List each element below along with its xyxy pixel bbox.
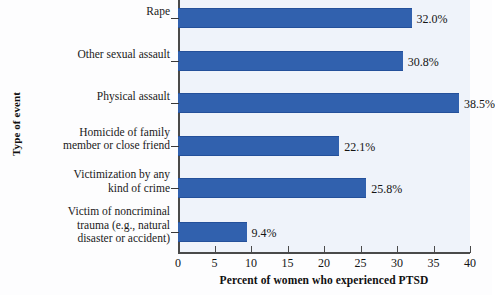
bar xyxy=(178,93,459,113)
category-label-line: Other sexual assault xyxy=(18,48,170,61)
x-tick-label: 5 xyxy=(203,256,227,271)
plot-area-background xyxy=(178,0,470,253)
bar xyxy=(178,222,247,242)
x-tick xyxy=(324,246,325,253)
bar xyxy=(178,8,412,28)
category-label: Victim of noncriminaltrauma (e.g., natur… xyxy=(18,205,170,245)
x-tick-label: 10 xyxy=(239,256,263,271)
x-tick-label: 25 xyxy=(349,256,373,271)
category-tick xyxy=(171,188,179,189)
category-label-line: kind of crime xyxy=(18,182,170,195)
y-axis-line xyxy=(178,0,180,253)
x-tick xyxy=(288,246,289,253)
category-label: Physical assault xyxy=(18,90,170,103)
bar xyxy=(178,136,339,156)
bar-value-label: 25.8% xyxy=(371,182,402,197)
bar xyxy=(178,51,403,71)
category-label: Other sexual assault xyxy=(18,48,170,61)
bar xyxy=(178,178,366,198)
x-tick-label: 0 xyxy=(166,256,190,271)
x-tick xyxy=(251,246,252,253)
category-label-line: Rape xyxy=(18,5,170,18)
x-tick-label: 20 xyxy=(312,256,336,271)
x-tick-label: 30 xyxy=(385,256,409,271)
category-label: Homicide of familymember or close friend xyxy=(18,126,170,152)
x-tick xyxy=(361,246,362,253)
category-tick xyxy=(171,61,179,62)
category-label-line: Physical assault xyxy=(18,90,170,103)
x-tick-label: 15 xyxy=(276,256,300,271)
bar-value-label: 9.4% xyxy=(252,226,277,241)
bar-value-label: 38.5% xyxy=(464,97,495,112)
category-tick xyxy=(171,232,179,233)
category-label-line: trauma (e.g., natural xyxy=(18,219,170,232)
category-label-line: Victimization by any xyxy=(18,168,170,181)
category-tick xyxy=(171,146,179,147)
x-tick xyxy=(470,246,471,253)
category-label-line: Homicide of family xyxy=(18,126,170,139)
x-tick xyxy=(397,246,398,253)
bar-value-label: 22.1% xyxy=(344,140,375,155)
category-label: Victimization by anykind of crime xyxy=(18,168,170,194)
category-tick xyxy=(171,18,179,19)
category-label-group: RapeOther sexual assaultPhysical assault… xyxy=(18,0,170,253)
category-label-line: member or close friend xyxy=(18,139,170,152)
x-tick-label: 40 xyxy=(458,256,482,271)
x-axis-title: Percent of women who experienced PTSD xyxy=(178,274,470,286)
category-label-line: disaster or accident) xyxy=(18,232,170,245)
bar-value-label: 32.0% xyxy=(417,12,448,27)
category-tick xyxy=(171,103,179,104)
x-tick xyxy=(434,246,435,253)
category-label: Rape xyxy=(18,5,170,18)
x-tick-label: 35 xyxy=(422,256,446,271)
x-tick xyxy=(215,246,216,253)
x-tick xyxy=(178,246,179,253)
category-label-line: Victim of noncriminal xyxy=(18,205,170,218)
bar-value-label: 30.8% xyxy=(408,55,439,70)
